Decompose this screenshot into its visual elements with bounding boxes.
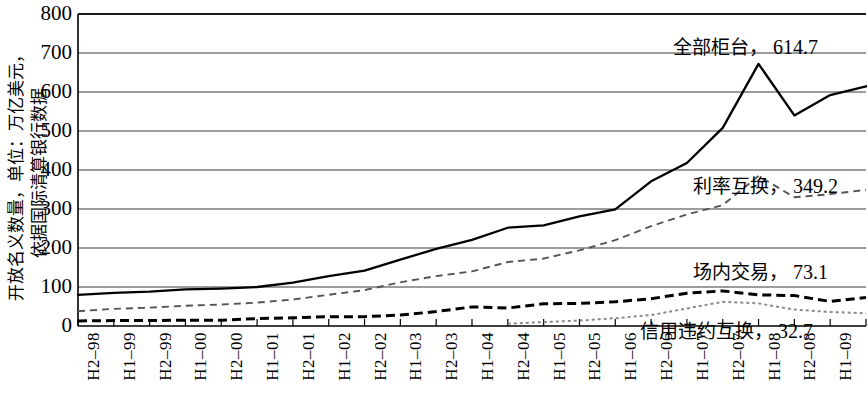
x-tick-label: H1–08 [765,332,785,402]
x-tick-label: H2–03 [442,332,462,402]
annotation-series-name: 信用违约互换， [640,320,773,342]
series-line [78,291,866,321]
x-tick-label: H1–01 [263,332,283,402]
x-tick-label: H1–99 [120,332,140,402]
annotation-series-name: 全部柜台， [673,36,768,58]
x-axis-labels: H2–98H1–99H2–99H1–00H2–00H1–01H2–01H1–02… [0,334,868,405]
x-tick-label: H2–05 [585,332,605,402]
annotation-series-name: 利率互换， [693,175,788,197]
x-tick-label: H2–02 [371,332,391,402]
x-tick-label: H1–07 [693,332,713,402]
x-tick-label: H2–99 [156,332,176,402]
x-tick-label: H2–98 [84,332,104,402]
annotation-series-name: 场内交易， [693,261,788,283]
annotation-exchange-traded: 场内交易， 73.1 [693,261,828,283]
x-tick-label: H2–08 [800,332,820,402]
x-tick-label: H1–04 [478,332,498,402]
x-tick-label: H2–01 [299,332,319,402]
annotation-value: 73.1 [788,261,828,283]
chart-figure: 开放名义数量，单位：万亿美元， 依据国际清算银行数据 8007006005004… [0,0,868,405]
x-tick-label: H2–04 [514,332,534,402]
x-tick-label: H1–00 [191,332,211,402]
annotation-interest-rate-swap: 利率互换， 349.2 [693,175,838,197]
annotation-credit-default-swap: 信用违约互换， 32.7 [640,320,813,342]
x-tick-label: H1–03 [406,332,426,402]
x-tick-label: H2–00 [227,332,247,402]
x-tick-label: H1–09 [836,332,856,402]
x-tick-label: H2–07 [729,332,749,402]
x-tick-label: H1–02 [335,332,355,402]
annotation-all-otc: 全部柜台， 614.7 [673,36,818,58]
annotation-value: 349.2 [788,175,838,197]
x-tick-label: H1–06 [621,332,641,402]
annotation-value: 32.7 [773,320,813,342]
x-tick-label: H2–06 [657,332,677,402]
annotation-value: 614.7 [768,36,818,58]
x-tick-label: H1–05 [550,332,570,402]
